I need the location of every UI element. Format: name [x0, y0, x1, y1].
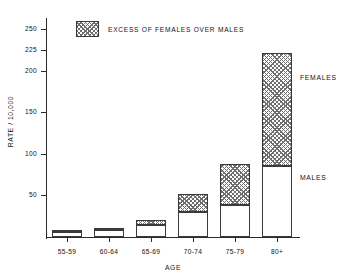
x-tick-label: 60-64	[100, 249, 118, 256]
x-axis-line	[46, 237, 300, 238]
plot-area	[46, 21, 298, 237]
bar-segment-males	[178, 212, 208, 237]
bar-segment-excess-females	[136, 220, 166, 226]
x-tick-label: 65-69	[142, 249, 160, 256]
y-tick-label: 150	[0, 109, 37, 116]
chart-container: RATE / 10,000 AGE 50100150200225250 55-5…	[0, 0, 338, 279]
y-axis-title: RATE / 10,000	[7, 86, 14, 158]
bar-65-69[interactable]	[136, 220, 166, 237]
bar-segment-males	[52, 232, 82, 237]
bar-80+[interactable]	[262, 53, 292, 237]
y-tick-label: 100	[0, 151, 37, 158]
bar-60-64[interactable]	[94, 228, 124, 237]
x-tick	[235, 237, 236, 242]
bar-segment-males	[136, 225, 166, 237]
x-tick-label: 75-79	[226, 249, 244, 256]
bar-segment-excess-females	[220, 164, 250, 206]
annotation-females: FEMALES	[300, 74, 337, 81]
x-tick-label: 70-74	[184, 249, 202, 256]
bar-segment-excess-females	[94, 228, 124, 230]
y-tick-label: 50	[0, 192, 37, 199]
x-tick	[193, 237, 194, 242]
x-tick-label: 80+	[271, 249, 283, 256]
annotation-males: MALES	[300, 174, 327, 181]
x-tick	[277, 237, 278, 242]
x-axis-title: AGE	[46, 264, 300, 271]
legend-label-excess-females: EXCESS OF FEMALES OVER MALES	[108, 26, 244, 33]
bar-segment-excess-females	[178, 194, 208, 212]
x-tick	[67, 237, 68, 242]
bar-segment-excess-females	[52, 230, 82, 232]
bar-segment-males	[262, 166, 292, 237]
bar-segment-males	[220, 205, 250, 237]
y-tick-label: 200	[0, 68, 37, 75]
legend-swatch-excess-females	[76, 21, 99, 37]
bar-segment-excess-females	[262, 53, 292, 167]
bar-75-79[interactable]	[220, 164, 250, 237]
bar-55-59[interactable]	[52, 230, 82, 237]
x-tick-label: 55-59	[58, 249, 76, 256]
y-tick-label: 225	[0, 47, 37, 54]
legend: EXCESS OF FEMALES OVER MALES	[76, 21, 244, 37]
x-tick	[151, 237, 152, 242]
bar-70-74[interactable]	[178, 194, 208, 237]
y-tick-label: 250	[0, 26, 37, 33]
x-tick	[109, 237, 110, 242]
bar-segment-males	[94, 230, 124, 237]
